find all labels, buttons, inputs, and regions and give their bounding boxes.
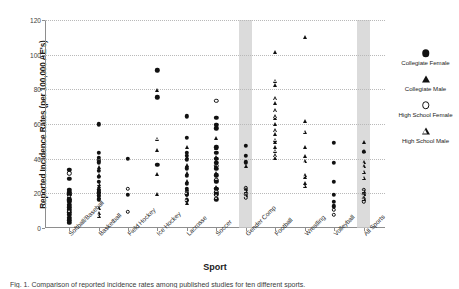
- legend-label: High School Male: [392, 137, 459, 144]
- data-point: [67, 216, 71, 220]
- legend-label: High School Female: [392, 111, 459, 118]
- x-tick-label-volleyball: Volleyball: [332, 213, 356, 237]
- legend-item-high-school-male[interactable]: High School Male: [392, 126, 459, 152]
- legend-label: Collegiate Female: [392, 59, 459, 66]
- data-point: [303, 184, 307, 188]
- data-point: [362, 164, 366, 168]
- data-point: [67, 171, 71, 175]
- legend-marker: [422, 101, 430, 109]
- y-tick-mark-20: [42, 193, 45, 194]
- filled-circle-icon: [392, 48, 459, 58]
- data-point: [273, 108, 277, 112]
- data-point: [332, 141, 336, 145]
- legend-item-collegiate-male[interactable]: Collegiate Male: [392, 74, 459, 100]
- data-point: [362, 176, 366, 180]
- data-point: [67, 221, 71, 225]
- x-tick-label-ice-hockey: Ice Hockey: [155, 210, 182, 237]
- data-point: [97, 206, 101, 210]
- chart-legend: Collegiate FemaleCollegiate MaleHigh Sch…: [392, 48, 459, 152]
- data-point: [185, 179, 189, 183]
- legend-item-high-school-female[interactable]: High School Female: [392, 100, 459, 126]
- data-point: [303, 119, 307, 123]
- data-point: [273, 153, 277, 157]
- data-point: [273, 83, 277, 87]
- data-point: [362, 170, 366, 174]
- data-point: [273, 50, 277, 54]
- data-point: [303, 159, 307, 163]
- data-point: [303, 35, 307, 39]
- data-point: [214, 196, 218, 200]
- data-point: [126, 193, 130, 197]
- data-point: [273, 114, 277, 118]
- data-point: [97, 165, 101, 169]
- filled-triangle-icon: [392, 74, 459, 84]
- data-point: [67, 176, 71, 180]
- data-point: [332, 208, 336, 212]
- data-point: [155, 95, 159, 99]
- data-point: [332, 161, 336, 165]
- data-point: [214, 146, 218, 150]
- data-point: [155, 172, 159, 176]
- y-tick-label-20: 20: [34, 190, 41, 197]
- data-point: [97, 214, 101, 218]
- data-point: [273, 128, 277, 132]
- data-point: [185, 145, 189, 149]
- figure-caption: Fig. 1. Comparison of reported incidence…: [10, 281, 454, 288]
- y-tick-label-40: 40: [34, 155, 41, 162]
- data-point: [214, 177, 218, 181]
- open-circle-icon: [392, 100, 459, 110]
- data-point: [303, 130, 307, 134]
- legend-marker: [422, 76, 430, 83]
- data-point: [362, 149, 366, 153]
- legend-label: Collegiate Male: [392, 85, 459, 92]
- x-tick-label-wrestling: Wrestling: [303, 214, 326, 237]
- data-point: [155, 88, 159, 92]
- legend-item-collegiate-female[interactable]: Collegiate Female: [392, 48, 459, 74]
- x-tick-label-lacrosse: Lacrosse: [185, 214, 208, 237]
- y-tick-label-0: 0: [37, 225, 41, 232]
- legend-marker: [422, 49, 430, 57]
- data-point: [214, 136, 218, 140]
- data-point: [273, 96, 277, 100]
- data-point: [185, 197, 189, 201]
- data-point: [97, 182, 101, 186]
- data-point: [273, 132, 277, 136]
- data-point: [185, 163, 189, 167]
- data-point: [273, 101, 277, 105]
- gridline-y-80: [45, 89, 385, 90]
- y-tick-label-120: 120: [30, 17, 41, 24]
- data-point: [214, 98, 218, 102]
- y-tick-label-60: 60: [34, 121, 41, 128]
- x-tick-label-field-hockey: Field Hockey: [126, 206, 157, 237]
- data-point: [244, 193, 248, 197]
- data-point: [155, 68, 159, 72]
- data-point: [303, 145, 307, 149]
- data-point: [332, 213, 336, 217]
- data-point: [362, 140, 366, 144]
- data-point: [214, 116, 218, 120]
- data-point: [303, 173, 307, 177]
- data-point: [67, 194, 71, 198]
- data-point: [185, 136, 189, 140]
- y-tick-mark-40: [42, 159, 45, 160]
- data-point: [97, 173, 101, 177]
- data-point: [155, 163, 159, 167]
- data-point: [303, 154, 307, 158]
- data-point: [185, 114, 189, 118]
- data-point: [362, 197, 366, 201]
- data-point: [126, 187, 130, 191]
- data-point: [155, 148, 159, 152]
- data-point: [273, 138, 277, 142]
- data-point: [155, 192, 159, 196]
- data-point: [67, 209, 71, 213]
- gridline-y-120: [45, 20, 385, 21]
- data-point: [126, 209, 130, 213]
- data-point: [273, 122, 277, 126]
- data-point: [332, 180, 336, 184]
- y-tick-mark-80: [42, 89, 45, 90]
- figure-scatter-incidence-rates: Reported Incidence Rates (per 100,000 AE…: [0, 0, 459, 289]
- data-point: [214, 171, 218, 175]
- data-point: [96, 122, 100, 126]
- data-point: [155, 137, 159, 141]
- open-triangle-icon: [392, 126, 459, 136]
